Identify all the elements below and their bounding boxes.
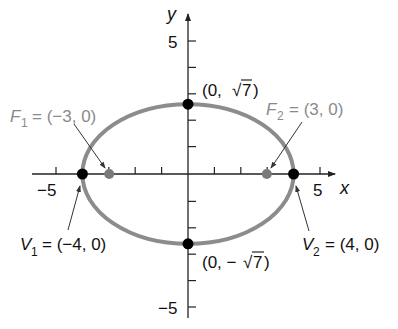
minor-bottom-label: (0, − √ 7 ) [202, 252, 270, 272]
v1-label: V 1 = (−4, 0) [20, 235, 106, 259]
minor-bottom-label-post: ) [264, 253, 270, 272]
y-tick-label-neg5: −5 [158, 299, 177, 318]
focus-f2-point [262, 169, 272, 179]
v1-label-sub: 1 [31, 245, 38, 259]
minor-bottom-point [183, 238, 194, 249]
x-tick-label-5: 5 [313, 181, 322, 200]
v2-label-sub: 2 [313, 245, 320, 259]
minor-bottom-root-sign: √ [243, 253, 253, 272]
minor-top-label-pre: (0, [202, 81, 222, 100]
f1-label-sub: 1 [21, 116, 28, 130]
x-tick-label-neg5: −5 [37, 181, 56, 200]
v2-label: V 2 = (4, 0) [302, 235, 379, 259]
f2-label-sub: 2 [277, 109, 284, 123]
v2-pointer-arrow [296, 186, 309, 231]
v2-label-coords: = (4, 0) [325, 235, 379, 254]
y-tick-label-5: 5 [168, 33, 177, 52]
ellipse-diagram: y x 5 −5 −5 5 F 1 = (−3, 0) F 2 = (3, 0)… [0, 0, 398, 329]
minor-top-radicand: 7 [242, 81, 251, 100]
minor-top-root-sign: √ [232, 81, 242, 100]
f2-label: F 2 = (3, 0) [266, 100, 343, 123]
minor-bottom-radicand: 7 [253, 253, 262, 272]
y-axis-label: y [165, 4, 177, 24]
minor-bottom-label-pre: (0, − [202, 253, 237, 272]
f2-pointer-arrow [271, 122, 302, 168]
focus-f1-point [104, 169, 114, 179]
minor-top-label: (0, √ 7 ) [202, 80, 259, 100]
f1-label-coords: = (−3, 0) [32, 107, 96, 126]
minor-top-label-post: ) [253, 81, 259, 100]
v1-pointer-arrow [68, 186, 80, 230]
vertex-v1-point [77, 169, 88, 180]
y-axis [188, 14, 196, 318]
minor-top-point [183, 99, 194, 110]
f1-label: F 1 = (−3, 0) [10, 107, 96, 130]
v1-label-coords: = (−4, 0) [42, 235, 106, 254]
vertex-v2-point [288, 169, 299, 180]
x-axis-label: x [339, 178, 350, 198]
f1-pointer-arrow [74, 124, 105, 168]
f2-label-coords: = (3, 0) [289, 100, 343, 119]
